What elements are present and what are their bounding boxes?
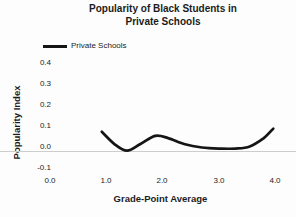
x-tick-1.0: 1.0	[91, 176, 121, 186]
x-tick-2.0: 2.0	[147, 176, 177, 186]
x-tick-4.0: 4.0	[260, 176, 290, 186]
x-tick-3.0: 3.0	[204, 176, 234, 186]
chart-figure: Popularity of Black Students in Private …	[0, 0, 296, 217]
x-axis-label: Grade-Point Average	[88, 193, 233, 204]
x-tick-0.0: 0.0	[35, 176, 65, 186]
private-schools-line	[102, 129, 273, 151]
